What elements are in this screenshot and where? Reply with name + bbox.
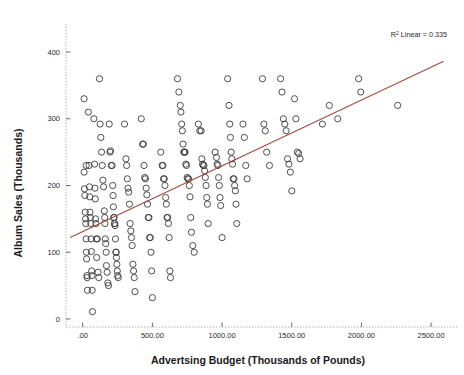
data-point — [106, 121, 112, 127]
data-point — [162, 182, 168, 188]
x-axis-tick-labels: .00500.001000.001500.002000.002500.00 — [78, 331, 445, 340]
data-point — [138, 116, 144, 122]
data-point — [81, 169, 87, 175]
x-tick-label: 1000.00 — [209, 331, 236, 340]
data-point — [177, 102, 183, 108]
data-point — [226, 102, 232, 108]
y-tick-label: 300 — [47, 114, 60, 123]
data-point — [89, 287, 95, 293]
data-point — [91, 161, 97, 167]
data-point — [92, 196, 98, 202]
data-point — [195, 121, 201, 127]
data-point — [131, 275, 137, 281]
data-point — [85, 109, 91, 115]
data-point — [158, 149, 164, 155]
data-point — [240, 121, 246, 127]
scatter-plot-figure: .00500.001000.001500.002000.002500.00 01… — [0, 0, 464, 375]
data-point — [278, 76, 284, 82]
x-tick-label: 2500.00 — [418, 331, 445, 340]
data-points — [81, 76, 401, 315]
data-point — [227, 121, 233, 127]
data-point — [141, 162, 147, 168]
axis-lines — [66, 24, 458, 327]
x-tick-label: 1500.00 — [278, 331, 305, 340]
data-point — [198, 128, 204, 134]
data-point — [287, 169, 293, 175]
data-point — [291, 96, 297, 102]
data-point — [217, 194, 223, 200]
data-point — [180, 141, 186, 147]
regression-line — [70, 61, 443, 237]
data-point — [216, 182, 222, 188]
data-point — [126, 201, 132, 207]
data-point — [103, 240, 109, 246]
data-point — [110, 192, 116, 198]
data-point — [110, 204, 116, 210]
data-point — [101, 208, 107, 214]
data-point — [289, 188, 295, 194]
data-point — [96, 76, 102, 82]
fit-line — [70, 61, 443, 237]
data-point — [94, 254, 100, 260]
data-point — [103, 263, 109, 269]
data-point — [283, 128, 289, 134]
data-point — [112, 236, 118, 242]
data-point — [121, 121, 127, 127]
data-point — [262, 128, 268, 134]
data-point — [215, 174, 221, 180]
data-point — [176, 89, 182, 95]
data-point — [241, 134, 247, 140]
data-point — [92, 185, 98, 191]
data-point — [358, 89, 364, 95]
data-point — [110, 182, 116, 188]
data-point — [174, 76, 180, 82]
data-point — [166, 234, 172, 240]
x-tick-label: 500.00 — [141, 331, 164, 340]
data-point — [97, 121, 103, 127]
data-point — [264, 149, 270, 155]
data-point — [261, 121, 267, 127]
data-point — [101, 184, 107, 190]
plot-canvas: .00500.001000.001500.002000.002500.00 01… — [0, 0, 464, 375]
data-point — [144, 192, 150, 198]
data-point — [124, 162, 130, 168]
data-point — [167, 275, 173, 281]
data-point — [203, 182, 209, 188]
data-point — [227, 134, 233, 140]
data-point — [167, 268, 173, 274]
data-point — [100, 177, 106, 183]
data-point — [128, 228, 134, 234]
data-point — [129, 242, 135, 248]
data-point — [89, 309, 95, 315]
data-point — [259, 76, 265, 82]
data-point — [233, 201, 239, 207]
data-point — [218, 202, 224, 208]
data-point — [123, 156, 129, 162]
x-tick-label: 2000.00 — [348, 331, 375, 340]
data-point — [279, 89, 285, 95]
data-point — [243, 162, 249, 168]
data-point — [114, 261, 120, 267]
data-point — [132, 289, 138, 295]
data-point — [98, 134, 104, 140]
data-point — [395, 102, 401, 108]
data-point — [191, 249, 197, 255]
svg-text:R2 Linear = 0.335: R2 Linear = 0.335 — [391, 30, 447, 39]
data-point — [103, 249, 109, 255]
data-point — [163, 194, 169, 200]
data-point — [130, 261, 136, 267]
data-point — [148, 249, 154, 255]
data-point — [197, 128, 203, 134]
data-point — [266, 162, 272, 168]
data-point — [149, 295, 155, 301]
y-tick-label: 0 — [56, 315, 60, 324]
data-point — [186, 182, 192, 188]
data-point — [188, 214, 194, 220]
data-point — [204, 201, 210, 207]
data-point — [205, 220, 211, 226]
data-point — [126, 189, 132, 195]
data-point — [127, 220, 133, 226]
data-point — [219, 234, 225, 240]
data-point — [179, 128, 185, 134]
data-point — [124, 176, 130, 182]
